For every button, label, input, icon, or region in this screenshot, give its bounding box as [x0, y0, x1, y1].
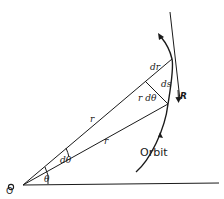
origin-label: O — [6, 186, 13, 196]
r-upper-label: r — [90, 114, 95, 124]
reference-axis-line — [23, 183, 219, 185]
orbit-geometry-diagram: O θ dθ r r dr ds r dθ R Orbit — [0, 0, 224, 199]
dtheta-label: dθ — [60, 155, 72, 165]
r-dtheta-label: r dθ — [138, 93, 157, 103]
orbit-label: Orbit — [140, 146, 168, 159]
radius-line-upper — [23, 59, 172, 185]
R-label: R — [180, 91, 187, 101]
R-arrow — [178, 90, 179, 100]
radius-line-lower — [23, 104, 168, 185]
theta-label: θ — [44, 174, 50, 184]
dr-label: dr — [150, 62, 161, 72]
r-lower-label: r — [104, 136, 109, 146]
ds-label: ds — [161, 79, 172, 89]
